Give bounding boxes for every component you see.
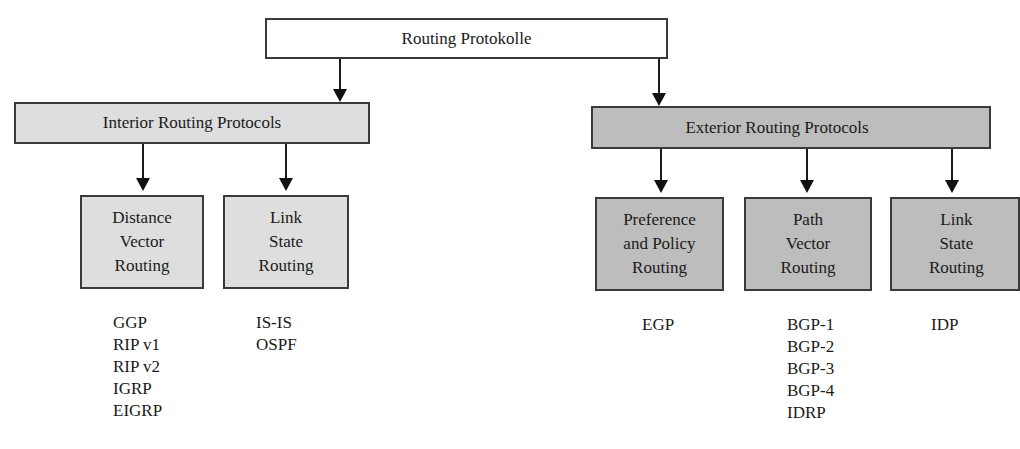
root-label: Routing Protokolle bbox=[402, 27, 532, 51]
arrowhead-icon bbox=[945, 180, 959, 193]
distance-vector-protocol-list: GGP RIP v1 RIP v2 IGRP EIGRP bbox=[113, 312, 162, 422]
root-node: Routing Protokolle bbox=[265, 18, 668, 59]
protocol-item: BGP-4 bbox=[787, 380, 834, 402]
preference-policy-label: Preference and Policy Routing bbox=[623, 208, 696, 280]
arrowhead-icon bbox=[652, 93, 666, 106]
connector-exterior-path-vector bbox=[806, 149, 808, 182]
connector-root-exterior bbox=[658, 59, 660, 94]
protocol-item: OSPF bbox=[256, 334, 297, 356]
protocol-item: RIP v2 bbox=[113, 356, 162, 378]
protocol-item: RIP v1 bbox=[113, 334, 162, 356]
protocol-item: BGP-2 bbox=[787, 336, 834, 358]
distance-vector-routing-node: Distance Vector Routing bbox=[80, 195, 204, 289]
protocol-item: EGP bbox=[642, 314, 674, 336]
arrowhead-icon bbox=[136, 178, 150, 191]
interior-node: Interior Routing Protocols bbox=[14, 102, 370, 144]
arrowhead-icon bbox=[279, 178, 293, 191]
path-vector-routing-node: Path Vector Routing bbox=[744, 197, 872, 291]
connector-exterior-preference bbox=[660, 149, 662, 182]
preference-policy-routing-node: Preference and Policy Routing bbox=[595, 197, 724, 291]
connector-root-interior bbox=[339, 59, 341, 91]
exterior-link-state-protocol-list: IDP bbox=[931, 314, 958, 336]
preference-policy-protocol-list: EGP bbox=[642, 314, 674, 336]
path-vector-label: Path Vector Routing bbox=[781, 208, 836, 280]
arrowhead-icon bbox=[333, 89, 347, 102]
protocol-item: GGP bbox=[113, 312, 162, 334]
link-state-protocol-list: IS-IS OSPF bbox=[256, 312, 297, 356]
exterior-label: Exterior Routing Protocols bbox=[685, 116, 868, 140]
exterior-link-state-label: Link State Routing bbox=[929, 208, 984, 280]
interior-label: Interior Routing Protocols bbox=[103, 111, 281, 135]
protocol-item: IDP bbox=[931, 314, 958, 336]
protocol-item: BGP-3 bbox=[787, 358, 834, 380]
connector-interior-link-state bbox=[285, 144, 287, 180]
exterior-link-state-routing-node: Link State Routing bbox=[890, 197, 1020, 291]
protocol-item: IS-IS bbox=[256, 312, 297, 334]
exterior-node: Exterior Routing Protocols bbox=[591, 106, 991, 149]
connector-exterior-link-state bbox=[951, 149, 953, 182]
protocol-item: BGP-1 bbox=[787, 314, 834, 336]
protocol-item: IDRP bbox=[787, 402, 834, 424]
protocol-item: EIGRP bbox=[113, 400, 162, 422]
connector-interior-distance-vector bbox=[142, 144, 144, 180]
link-state-label: Link State Routing bbox=[259, 206, 314, 278]
protocol-item: IGRP bbox=[113, 378, 162, 400]
link-state-routing-node: Link State Routing bbox=[223, 195, 349, 289]
arrowhead-icon bbox=[800, 180, 814, 193]
arrowhead-icon bbox=[654, 180, 668, 193]
distance-vector-label: Distance Vector Routing bbox=[112, 206, 171, 278]
path-vector-protocol-list: BGP-1 BGP-2 BGP-3 BGP-4 IDRP bbox=[787, 314, 834, 424]
